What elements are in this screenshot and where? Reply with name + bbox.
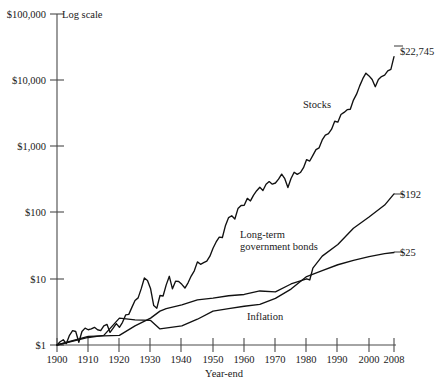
x-tick-label-2008: 2008 [384, 354, 405, 365]
end-label-stocks: $22,745 [400, 46, 434, 57]
chart-background [0, 0, 438, 382]
y-tick-label-100000: $100,000 [7, 9, 46, 20]
x-tick-label-1940: 1940 [171, 354, 192, 365]
x-tick-label-1930: 1930 [140, 354, 161, 365]
y-tick-label-10: $10 [30, 274, 46, 285]
x-tick-label-1960: 1960 [234, 354, 255, 365]
y-tick-label-10000: $10,000 [12, 75, 46, 86]
x-tick-label-1920: 1920 [109, 354, 130, 365]
x-axis-title: Year-end [205, 368, 244, 379]
chart-container: $100,000 $10,000 $1,000 $100 $10 $1 1900… [0, 0, 438, 382]
end-label-inflation: $25 [400, 247, 416, 258]
series-label-bonds-line2: government bonds [240, 241, 318, 252]
x-tick-label-1990: 1990 [327, 354, 348, 365]
y-tick-label-1: $1 [36, 340, 47, 351]
y-tick-label-100: $100 [25, 207, 46, 218]
x-tick-label-1910: 1910 [78, 354, 99, 365]
series-label-inflation: Inflation [247, 311, 284, 322]
log-scale-note: Log scale [62, 9, 103, 20]
y-tick-label-1000: $1,000 [17, 141, 46, 152]
series-label-bonds-line1: Long-term [240, 229, 285, 240]
growth-of-one-dollar-chart: $100,000 $10,000 $1,000 $100 $10 $1 1900… [0, 0, 438, 382]
end-label-bonds: $192 [400, 189, 421, 200]
x-tick-label-1950: 1950 [203, 354, 224, 365]
x-tick-label-2000: 2000 [359, 354, 380, 365]
x-tick-label-1900: 1900 [47, 354, 68, 365]
x-tick-label-1970: 1970 [265, 354, 286, 365]
series-label-stocks: Stocks [303, 99, 331, 110]
x-tick-label-1980: 1980 [296, 354, 317, 365]
